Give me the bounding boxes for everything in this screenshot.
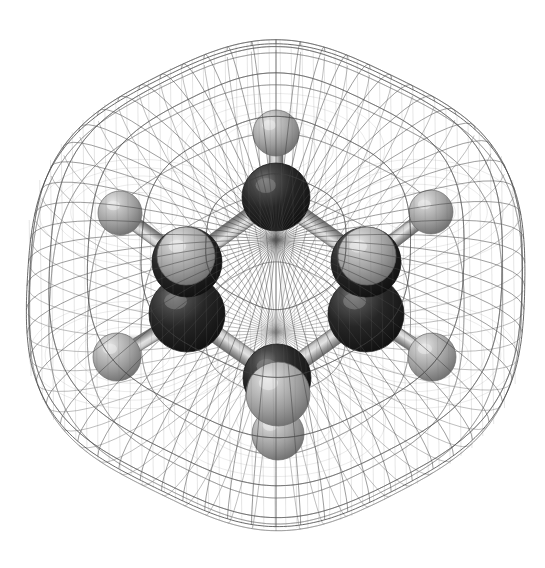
atom-h-H2 [98, 191, 142, 235]
atom-h-H4b [246, 362, 310, 426]
molecule-viewer [0, 0, 545, 568]
atom-h-H6 [409, 190, 453, 234]
molecule-canvas [0, 0, 545, 568]
atom-h-H6b [338, 227, 396, 285]
